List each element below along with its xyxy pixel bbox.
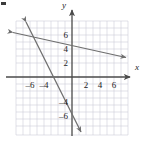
x-tick-label: –4 bbox=[39, 80, 50, 90]
y-axis-label: y bbox=[62, 1, 66, 10]
x-tick-label: –6 bbox=[25, 80, 36, 90]
y-tick-label: 2 bbox=[64, 58, 69, 68]
y-tick-label: –4 bbox=[58, 97, 69, 107]
y-tick-label: 6 bbox=[64, 30, 69, 40]
y-tick-labels: 6 4 2 –4 –6 bbox=[58, 30, 69, 121]
x-axis-label: x bbox=[135, 63, 139, 72]
y-tick-label: 4 bbox=[64, 44, 69, 54]
x-tick-label: 6 bbox=[112, 80, 117, 90]
x-tick-label: 2 bbox=[84, 80, 89, 90]
coordinate-plane: –6 –4 2 4 6 6 4 2 –4 –6 bbox=[0, 0, 146, 142]
x-tick-labels: –6 –4 2 4 6 bbox=[25, 80, 117, 90]
y-tick-label: –6 bbox=[58, 111, 69, 121]
x-tick-label: 4 bbox=[98, 80, 103, 90]
graph-figure: –6 –4 2 4 6 6 4 2 –4 –6 y x bbox=[0, 0, 146, 142]
